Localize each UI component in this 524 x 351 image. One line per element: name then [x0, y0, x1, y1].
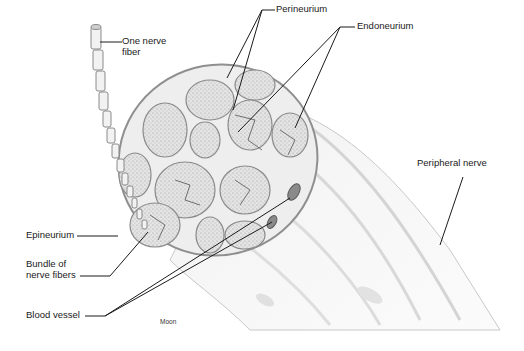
label-endoneurium: Endoneurium [357, 21, 414, 32]
label-peripheral-nerve: Peripheral nerve [417, 158, 487, 169]
nerve-illustration [0, 0, 524, 351]
label-epineurium: Epineurium [26, 230, 74, 241]
label-line: nerve fibers [26, 270, 76, 281]
label-perineurium: Perineurium [276, 4, 327, 15]
label-blood-vessel: Blood vessel [26, 310, 80, 321]
label-bundle-of-nerve-fibers: Bundle of nerve fibers [26, 259, 76, 280]
label-line: One nerve [122, 36, 166, 47]
label-one-nerve-fiber: One nerve fiber [122, 36, 166, 57]
label-line: fiber [122, 47, 166, 58]
label-line: Bundle of [26, 259, 76, 270]
artist-credit: Moon [160, 318, 176, 325]
